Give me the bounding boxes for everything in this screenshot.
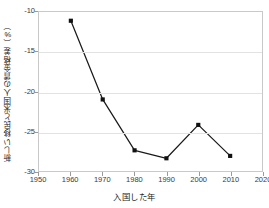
y-axis-tick-mark <box>34 92 38 93</box>
x-axis-tick-label: 1960 <box>53 176 87 184</box>
y-axis-tick-label: -10 <box>7 7 35 15</box>
y-axis-tick-mark <box>34 11 38 12</box>
y-axis-tick-label: -15 <box>7 48 35 56</box>
data-point-marker <box>132 148 136 152</box>
data-point-marker <box>69 19 73 23</box>
x-axis-tick-label: 2020 <box>246 176 269 184</box>
x-axis-tick-label: 1990 <box>150 176 184 184</box>
series-line <box>71 21 230 159</box>
x-axis-tick-label: 1950 <box>21 176 55 184</box>
x-axis-tick-mark <box>199 172 200 176</box>
series-svg <box>39 12 262 171</box>
x-axis-tick-mark <box>231 172 232 176</box>
x-axis-tick-mark <box>102 172 103 176</box>
gridline-y <box>39 93 262 94</box>
data-point-marker <box>196 123 200 127</box>
y-axis-tick-label: -25 <box>7 128 35 136</box>
x-axis-tick-mark <box>263 172 264 176</box>
y-axis-tick-mark <box>34 51 38 52</box>
x-axis-tick-label: 2000 <box>182 176 216 184</box>
x-axis-tick-mark <box>38 172 39 176</box>
x-axis-tick-label: 1980 <box>117 176 151 184</box>
x-axis-tick-label: 2010 <box>214 176 248 184</box>
chart-figure: 新しい移民と米国人の賃金格差（%） 入国した年 -10-15-20-25-301… <box>0 0 269 208</box>
gridline-y <box>39 52 262 53</box>
data-point-marker <box>228 154 232 158</box>
x-axis-title: 入国した年 <box>0 190 269 202</box>
y-axis-tick-label: -20 <box>7 88 35 96</box>
plot-area <box>38 11 263 172</box>
x-axis-tick-label: 1970 <box>85 176 119 184</box>
x-axis-tick-mark <box>70 172 71 176</box>
x-axis-tick-mark <box>134 172 135 176</box>
data-point-marker <box>101 97 105 101</box>
data-point-marker <box>164 156 168 160</box>
gridline-y <box>39 133 262 134</box>
x-axis-tick-mark <box>167 172 168 176</box>
y-axis-tick-mark <box>34 132 38 133</box>
